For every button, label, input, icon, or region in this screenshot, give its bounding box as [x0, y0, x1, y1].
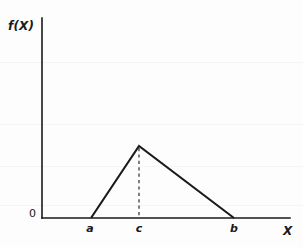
plot-canvas — [0, 0, 303, 247]
y-axis-title: f(X) — [8, 19, 34, 33]
x-axis-title: X — [283, 224, 292, 238]
x-tick-label-a: a — [80, 222, 100, 235]
x-tick-label-c: c — [129, 222, 149, 235]
triangular-distribution-figure: f(X) X 0 a c b — [0, 0, 303, 247]
x-tick-label-b: b — [224, 222, 244, 235]
origin-label: 0 — [29, 207, 36, 220]
triangular-pdf-curve — [91, 146, 234, 218]
